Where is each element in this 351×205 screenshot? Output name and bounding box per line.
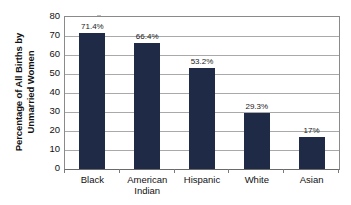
x-axis-tick-mark: [174, 169, 175, 173]
x-axis-category-label: White: [229, 174, 284, 196]
bar-value-label: 29.3%: [245, 102, 268, 111]
bar-slot: 29.3%: [229, 17, 284, 169]
bar-slot: 66.4%: [120, 17, 175, 169]
y-axis-title-line-1: Percentage of All Births by: [13, 33, 25, 151]
plot-area: 71.4%66.4%53.2%29.3%17%: [64, 16, 340, 170]
bar-value-label: 71.4%: [81, 22, 104, 31]
x-axis-tick-mark: [338, 169, 339, 173]
x-axis-category-label-line: White: [229, 174, 284, 185]
x-axis-tick-mark: [119, 169, 120, 173]
y-axis-tick-label: 80: [49, 11, 60, 21]
y-axis-tick-label: 70: [49, 30, 60, 40]
x-axis-category-labels: BlackAmericanIndianHispanicWhiteAsian: [65, 174, 339, 196]
x-axis-category-label: Black: [65, 174, 120, 196]
y-axis-tick-label: 50: [49, 68, 60, 78]
x-axis-tick-marks: [64, 169, 340, 173]
x-axis-category-label: Asian: [284, 174, 339, 196]
bar-value-label: 17%: [304, 126, 320, 135]
x-axis-category-label: Hispanic: [175, 174, 230, 196]
x-axis-category-label-line: Indian: [120, 185, 175, 196]
bar-value-label: 66.4%: [136, 32, 159, 41]
y-axis-tick-label: 10: [49, 144, 60, 154]
y-axis-tick-labels: 80706050403020100: [36, 16, 60, 168]
bar[interactable]: [244, 113, 270, 169]
x-axis-category-label-line: American: [120, 174, 175, 185]
bar-slot: 53.2%: [175, 17, 230, 169]
bar-slot: 17%: [284, 17, 339, 169]
x-axis-tick-mark: [64, 169, 65, 173]
x-axis-category-label-line: Hispanic: [175, 174, 230, 185]
x-axis-category-label-line: Asian: [284, 174, 339, 185]
y-axis-tick-label: 40: [49, 87, 60, 97]
y-axis-tick-label: 60: [49, 49, 60, 59]
bar[interactable]: [134, 43, 160, 169]
y-axis-tick-label: 20: [49, 125, 60, 135]
bars-layer: 71.4%66.4%53.2%29.3%17%: [65, 17, 339, 169]
x-axis-category-label-line: Black: [65, 174, 120, 185]
bar-slot: 71.4%: [65, 17, 120, 169]
bar[interactable]: [79, 33, 105, 169]
bar[interactable]: [299, 137, 325, 169]
bar-chart-figure: Percentage of All Births by Unmarried Wo…: [0, 0, 351, 205]
bar[interactable]: [189, 68, 215, 169]
y-axis-tick-label: 30: [49, 106, 60, 116]
bar-value-label: 53.2%: [191, 57, 214, 66]
y-axis-tick-label: 0: [55, 163, 60, 173]
x-axis-tick-mark: [228, 169, 229, 173]
x-axis-category-label: AmericanIndian: [120, 174, 175, 196]
x-axis-tick-mark: [283, 169, 284, 173]
